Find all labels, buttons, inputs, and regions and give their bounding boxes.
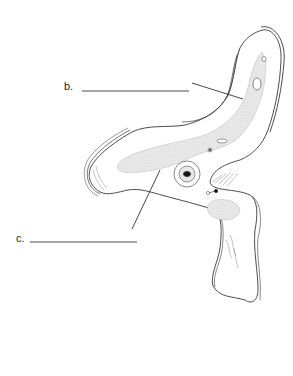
- tissue-section-diagram: [0, 0, 293, 376]
- label-c: c.: [16, 233, 25, 244]
- label-b: b.: [64, 81, 73, 92]
